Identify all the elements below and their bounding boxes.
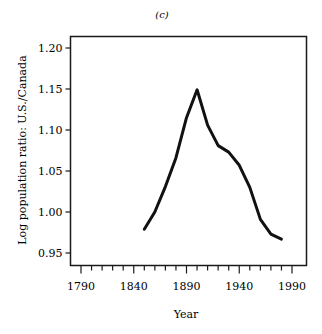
y-axis-title: Log population ratio: U.S./Canada (16, 55, 29, 245)
y-tick-label: 1.20 (38, 42, 63, 55)
y-tick-label: 1.10 (38, 124, 63, 137)
y-tick-label: 1.00 (38, 206, 63, 219)
x-axis: 17901840189019401990 (67, 266, 306, 293)
y-tick-label: 1.15 (38, 83, 63, 96)
x-tick-label: 1990 (278, 280, 306, 293)
x-tick-label: 1790 (67, 280, 95, 293)
data-line (144, 90, 281, 239)
line-chart: (c) 0.951.001.051.101.151.20 17901840189… (0, 0, 322, 334)
y-tick-label: 0.95 (38, 247, 63, 260)
y-axis: 0.951.001.051.101.151.20 (38, 42, 71, 260)
x-tick-label: 1890 (173, 280, 201, 293)
panel-label: (c) (155, 9, 169, 20)
x-tick-label: 1940 (225, 280, 253, 293)
y-tick-label: 1.05 (38, 165, 63, 178)
plot-frame (71, 37, 307, 266)
x-tick-label: 1840 (120, 280, 148, 293)
x-axis-title: Year (173, 308, 199, 321)
